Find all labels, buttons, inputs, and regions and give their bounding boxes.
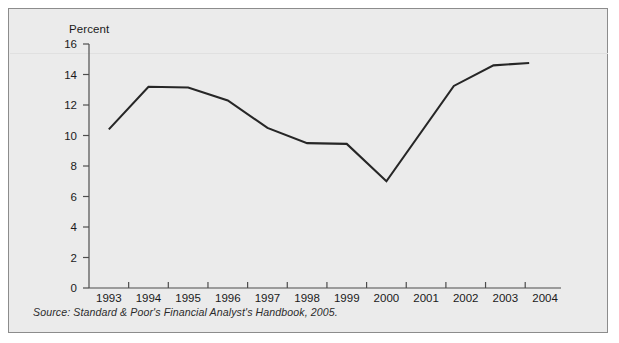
axis-lines <box>89 44 561 288</box>
y-axis-ticks <box>83 44 89 288</box>
chart-canvas <box>9 9 609 334</box>
x-axis-ticks <box>129 282 526 288</box>
source-note: Source: Standard & Poor's Financial Anal… <box>33 306 338 318</box>
chart-frame: Percent 1614121086420 199319941995199619… <box>8 8 608 333</box>
figure-container: Percent 1614121086420 199319941995199619… <box>0 0 619 343</box>
plot-area: Percent 1614121086420 199319941995199619… <box>9 9 609 334</box>
data-series-line <box>109 63 529 181</box>
